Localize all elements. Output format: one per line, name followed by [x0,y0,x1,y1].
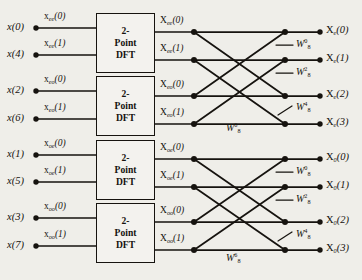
arg: (0) [336,24,348,35]
butterfly-node-dots-left [191,29,197,253]
dft-block-line1: 2- [122,88,130,100]
subscript: ee [167,47,173,54]
arg: (1) [54,38,65,48]
arg: (3) [336,116,348,127]
var: X [326,116,334,127]
twiddle-label-W8-6-upper: W68 [226,122,241,133]
subscript: oo [167,209,173,216]
arg: (2) [337,214,349,225]
arg: (0) [337,151,349,162]
arg: (1) [173,170,184,180]
dft-block-line3: DFT [116,239,135,251]
twiddle-label-W8-2-lower: W28 [296,193,311,204]
arg: (0) [55,138,66,148]
twiddle-modulus: 8 [307,233,310,240]
block-input-label-xee0: xee(0) [44,12,65,22]
block-input-label-xoe1: xoe(1) [44,166,66,176]
butterfly-node-dots-right [282,29,288,253]
dft-block-line1: 2- [122,152,130,164]
dft-block-oo[interactable]: 2- Point DFT [96,203,155,263]
twiddle-label-W8-0-lower: W08 [296,165,311,176]
output-label-X02: X0(2) [326,215,349,226]
butterfly-cross-lines-upper [194,32,285,124]
subscript: e [334,121,337,128]
output-wires [285,32,320,250]
arg: (1) [55,102,66,112]
twiddle-modulus: 8 [307,71,310,78]
var: X [326,151,334,162]
var: X [160,170,167,180]
twiddle-label-W8-4-lower: W48 [296,228,311,239]
dft-block-line2: Point [115,227,137,239]
var: X [160,107,167,117]
arg: (1) [55,165,66,175]
twiddle-leader-lines [276,45,293,241]
twiddle-modulus: 8 [307,170,310,177]
dft-block-ee[interactable]: 2- Point DFT [96,13,155,73]
subscript: 0 [334,247,337,254]
subscript: ee [167,19,173,26]
block-input-label-xoo1: xoo(1) [44,230,66,240]
block-output-label-Xee1: Xee(1) [160,44,183,54]
dft-block-line3: DFT [116,176,135,188]
input-label-x5: x(5) [7,176,24,187]
subscript: ee [49,15,55,22]
var: X [160,15,167,25]
subscript: ee [49,42,55,49]
subscript: oe [49,169,55,176]
block-input-label-xee1: xee(1) [44,39,65,49]
subscript: oo [49,205,55,212]
arg: (0) [173,142,184,152]
dft-block-line3: DFT [116,112,135,124]
subscript: 0 [334,156,337,163]
butterfly-cross-lines-lower [194,159,285,250]
output-terminal-dots [317,29,322,252]
block-input-label-xeo1: xeo(1) [44,103,66,113]
output-label-X03: X0(3) [326,243,349,254]
output-label-Xe3: Xe(3) [326,117,349,128]
subscript: eo [49,106,55,113]
arg: (1) [173,233,184,243]
subscript: eo [167,83,173,90]
butterfly-straight-lines-upper [194,32,285,124]
arg: (1) [55,229,66,239]
twiddle-modulus: 8 [237,127,240,134]
dft-block-eo[interactable]: 2- Point DFT [96,76,155,136]
twiddle-modulus: 8 [307,43,310,50]
subscript: oe [49,142,55,149]
output-label-X00: X0(0) [326,152,349,163]
dft-block-oe[interactable]: 2- Point DFT [96,140,155,200]
arg: (0) [173,79,184,89]
subscript: oo [167,237,173,244]
twiddle-label-W8-2-upper: W28 [296,66,311,77]
var: X [326,242,334,253]
dft-block-line1: 2- [122,25,130,37]
input-label-x1: x(1) [7,149,24,160]
arg: (3) [337,242,349,253]
input-label-x6: x(6) [7,113,24,124]
subscript: e [334,29,337,36]
arg: (0) [172,15,183,25]
input-label-x0: x(0) [7,22,24,33]
var: X [160,79,167,89]
input-wires [36,28,96,246]
block-output-label-Xeo1: Xeo(1) [160,108,184,118]
fft-butterfly-diagram: 2- Point DFT 2- Point DFT 2- Point DFT 2… [0,0,362,280]
butterfly-straight-lines-lower [194,159,285,250]
output-label-Xe0: Xe(0) [326,25,349,36]
block-input-label-xeo0: xeo(0) [44,75,66,85]
arg: (1) [337,179,349,190]
subscript: oo [49,233,55,240]
var: X [326,88,334,99]
subscript: eo [49,78,55,85]
var: X [160,142,167,152]
dft-block-line2: Point [115,37,137,49]
subscript: eo [167,111,173,118]
twiddle-label-W8-4-upper: W48 [296,101,311,112]
twiddle-modulus: 8 [237,257,240,264]
dft-block-line1: 2- [122,215,130,227]
subscript: e [334,93,337,100]
block-input-label-xoe0: xoe(0) [44,139,66,149]
input-dots [33,25,38,248]
arg: (2) [336,88,348,99]
